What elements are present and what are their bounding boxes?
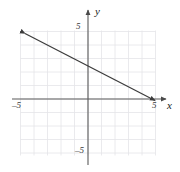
y-axis-tick-label-positive: 5: [76, 22, 81, 31]
x-axis-label: x: [167, 100, 172, 111]
coordinate-plane-figure: y x 5 –5 5 –5: [0, 0, 180, 172]
graph-canvas: [0, 0, 180, 172]
x-axis-tick-label-negative: –5: [12, 101, 21, 110]
plotted-line: [25, 34, 155, 101]
x-axis-tick-label-positive: 5: [152, 101, 157, 110]
y-axis-tick-label-negative: –5: [75, 146, 84, 155]
y-axis-label: y: [95, 6, 100, 17]
